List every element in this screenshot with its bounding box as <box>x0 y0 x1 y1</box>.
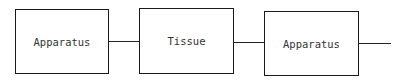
connector-output-line <box>359 43 391 44</box>
connector-apparatus-tissue <box>109 41 139 42</box>
tissue-box: Tissue <box>139 8 234 74</box>
apparatus-label-left: Apparatus <box>34 36 91 48</box>
apparatus-box-right: Apparatus <box>264 11 359 76</box>
tissue-label: Tissue <box>168 35 206 47</box>
connector-tissue-apparatus <box>234 42 264 43</box>
apparatus-label-right: Apparatus <box>283 38 340 50</box>
apparatus-box-left: Apparatus <box>15 9 109 74</box>
